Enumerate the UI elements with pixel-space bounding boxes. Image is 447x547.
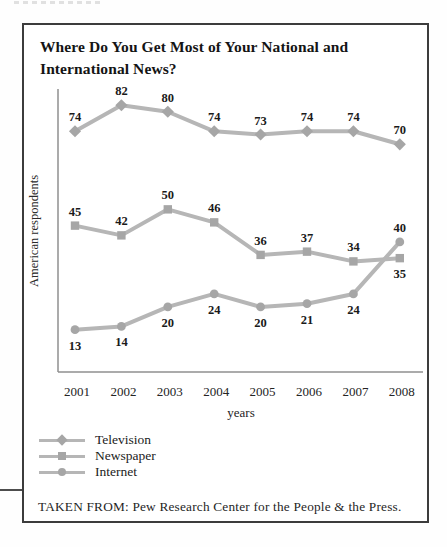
data-label-internet: 24 <box>347 303 360 317</box>
data-label-newspaper: 42 <box>115 214 128 228</box>
data-label-television: 74 <box>301 110 314 124</box>
newspaper-line-marker-icon <box>39 451 85 462</box>
data-point-television <box>347 125 359 137</box>
data-label-internet: 40 <box>394 221 407 235</box>
data-label-television: 74 <box>347 110 360 124</box>
legend-label: Internet <box>95 464 137 480</box>
data-point-television <box>301 125 313 137</box>
source-caption: TAKEN FROM: Pew Research Center for the … <box>38 499 420 515</box>
data-point-television <box>255 128 267 140</box>
x-tick-label: 2004 <box>203 384 230 399</box>
x-tick-label: 2007 <box>342 384 369 399</box>
data-point-internet <box>349 290 358 299</box>
data-label-newspaper: 50 <box>162 188 175 202</box>
legend-label: Newspaper <box>95 448 156 464</box>
cropped-page-text-artifact <box>14 1 102 4</box>
data-label-newspaper: 46 <box>208 201 221 215</box>
data-point-newspaper <box>349 257 357 265</box>
x-tick-label: 2006 <box>296 384 323 399</box>
data-point-internet <box>71 325 80 334</box>
x-tick-label: 2001 <box>64 384 90 399</box>
data-label-internet: 13 <box>69 339 82 353</box>
data-point-newspaper <box>396 254 404 262</box>
data-point-television <box>208 125 220 137</box>
legend-item-newspaper: Newspaper <box>39 448 156 464</box>
data-point-internet <box>256 303 265 312</box>
data-point-newspaper <box>71 221 79 229</box>
data-point-newspaper <box>210 218 218 226</box>
data-label-internet: 24 <box>208 303 221 317</box>
x-tick-label: 2005 <box>250 384 276 399</box>
data-label-television: 82 <box>115 84 128 98</box>
television-line-marker-icon <box>39 435 85 446</box>
data-point-internet <box>395 237 404 246</box>
data-point-television <box>394 138 406 150</box>
x-tick-label: 2003 <box>157 384 183 399</box>
data-point-newspaper <box>164 205 172 213</box>
data-point-newspaper <box>256 251 264 259</box>
data-label-internet: 21 <box>301 313 314 327</box>
data-label-television: 74 <box>208 110 221 124</box>
legend-label: Television <box>95 432 151 448</box>
internet-line-marker-icon <box>39 467 85 478</box>
x-tick-label: 2008 <box>389 384 415 399</box>
page-rule-artifact <box>0 489 22 491</box>
data-label-television: 80 <box>162 91 175 105</box>
page: Where Do You Get Most of Your National a… <box>0 0 447 547</box>
data-label-television: 73 <box>254 114 267 128</box>
data-label-newspaper: 36 <box>254 234 267 248</box>
y-axis-label: American respondents <box>27 175 41 287</box>
data-point-internet <box>163 303 172 312</box>
data-label-internet: 20 <box>254 316 267 330</box>
data-point-television <box>162 106 174 118</box>
data-label-newspaper: 35 <box>394 267 407 281</box>
data-label-television: 74 <box>69 110 82 124</box>
data-label-newspaper: 45 <box>69 205 82 219</box>
data-label-newspaper: 34 <box>347 240 360 254</box>
data-label-internet: 20 <box>162 316 175 330</box>
figure-box: Where Do You Get Most of Your National a… <box>22 23 429 523</box>
legend-item-internet: Internet <box>39 464 156 480</box>
data-point-internet <box>303 299 312 308</box>
data-label-newspaper: 37 <box>301 231 314 245</box>
x-axis-label: years <box>227 405 254 420</box>
data-label-television: 70 <box>394 123 407 137</box>
data-point-newspaper <box>117 231 125 239</box>
data-point-internet <box>117 322 126 331</box>
data-point-internet <box>210 290 219 299</box>
x-tick-label: 2002 <box>110 384 136 399</box>
data-point-newspaper <box>303 247 311 255</box>
legend: Television Newspaper Internet <box>39 432 156 480</box>
data-label-internet: 14 <box>115 335 128 349</box>
legend-item-television: Television <box>39 432 156 448</box>
